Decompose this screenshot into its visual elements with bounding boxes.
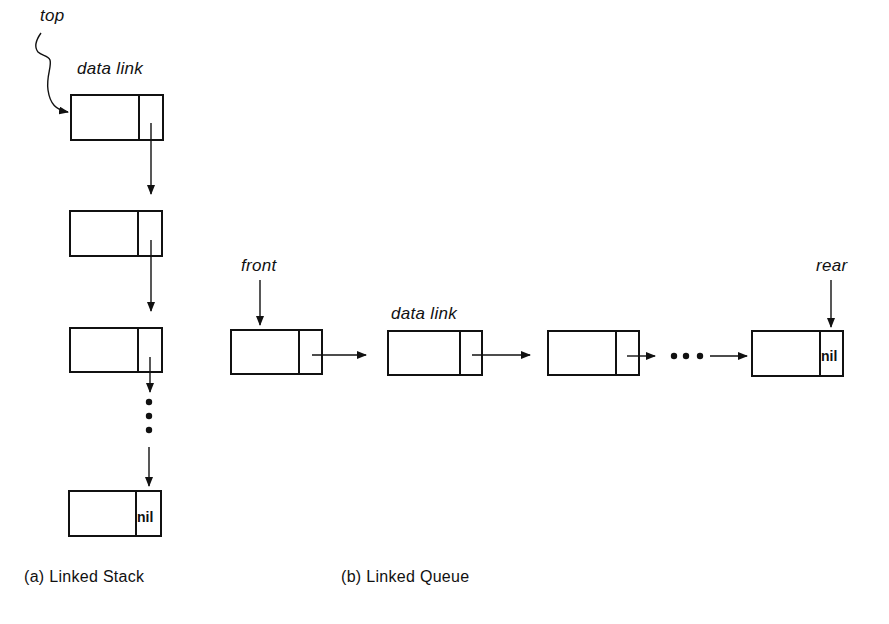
queue-ellipsis-icon — [671, 353, 703, 359]
diagram-canvas: top data link nil (a) Linked Stack front… — [0, 0, 889, 624]
stack-ellipsis-icon — [146, 399, 152, 433]
connector-layer — [0, 0, 889, 624]
top-pointer-arrow — [36, 33, 68, 112]
